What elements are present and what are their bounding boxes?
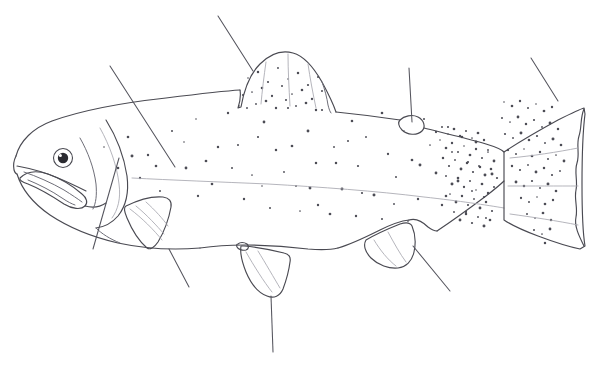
body-spot — [185, 167, 188, 170]
body-spot — [411, 159, 414, 162]
body-spot — [441, 204, 443, 206]
peduncle-spot — [477, 132, 480, 135]
caudal-fin-spot — [555, 154, 557, 156]
caudal-fin-spot — [542, 212, 545, 215]
dorsal-fin-spot — [297, 72, 299, 74]
body-spot — [393, 203, 395, 205]
body-spot — [321, 109, 323, 111]
peduncle-spot — [445, 175, 447, 177]
body-spot — [231, 167, 233, 169]
peduncle-spot — [471, 137, 473, 139]
dorsal-fin-spot — [301, 89, 304, 92]
eye-highlight — [59, 154, 62, 157]
caudal-fin-spot — [526, 213, 528, 215]
caudal-fin-spot — [527, 164, 529, 166]
body-spot — [447, 126, 449, 128]
peduncle-spot — [483, 139, 485, 141]
body-spot — [195, 118, 197, 120]
body-spot — [117, 167, 120, 170]
dorsal-fin-spot — [307, 84, 309, 86]
caudal-fin-spot — [547, 183, 550, 186]
dorsal-fin-spot — [321, 90, 323, 92]
leader-anal-fin — [413, 246, 450, 291]
caudal-fin-spot — [515, 181, 518, 184]
caudal-fin-spot — [517, 116, 520, 119]
body-spot — [147, 154, 149, 156]
caudal-fin-spot — [501, 117, 503, 119]
caudal-fin-spot — [563, 160, 566, 163]
peduncle-spot — [449, 193, 451, 195]
peduncle-spot — [445, 147, 448, 150]
caudal-fin-spot — [519, 169, 521, 171]
leader-caudal-fin — [531, 58, 558, 101]
body-spot — [335, 162, 338, 165]
body-spot — [451, 151, 453, 153]
peduncle-spot — [487, 151, 489, 153]
dorsal-fin-spot — [311, 98, 313, 100]
peduncle-spot — [448, 165, 450, 167]
peduncle-spot — [481, 183, 484, 186]
peduncle-spot — [491, 210, 493, 212]
caudal-fin-spot — [536, 196, 538, 198]
dorsal-fin-spot — [246, 107, 248, 109]
body-spot — [387, 153, 389, 155]
leader-adipose-fin — [409, 68, 412, 122]
caudal-fin-spot — [531, 180, 533, 182]
body-spot — [171, 130, 173, 132]
peduncle-spot — [439, 139, 441, 141]
peduncle-spot — [459, 219, 462, 222]
body-spot — [485, 217, 487, 219]
caudal-fin-spot — [533, 119, 535, 121]
dorsal-fin-spot — [315, 109, 317, 111]
body-spot — [373, 194, 376, 197]
body-spot — [299, 210, 301, 212]
peduncle-spot — [466, 162, 469, 165]
body-spot — [275, 149, 277, 151]
caudal-fin-spot — [560, 144, 563, 147]
body-spot — [471, 190, 473, 192]
leader-pelvic-fin — [271, 296, 273, 352]
body-spot — [329, 213, 332, 216]
dorsal-fin-spot — [255, 103, 257, 105]
fish-anatomy-diagram — [0, 0, 596, 367]
peduncle-spot — [493, 160, 496, 163]
body-spot — [307, 130, 310, 133]
dorsal-fin-spot — [281, 85, 283, 87]
caudal-fin-spot — [535, 103, 537, 105]
dorsal-fin-spot — [265, 100, 268, 103]
body-spot — [127, 136, 130, 139]
body-spot — [159, 190, 161, 192]
caudal-fin-spot — [551, 174, 553, 176]
caudal-fin-spot — [520, 132, 523, 135]
peduncle-spot — [457, 151, 459, 153]
dorsal-fin-spot — [247, 77, 249, 79]
caudal-fin-spot — [511, 105, 514, 108]
caudal-fin-spot — [525, 123, 527, 125]
body-spot — [365, 136, 367, 138]
body-spot — [317, 204, 319, 206]
caudal-fin-spot — [552, 199, 554, 201]
peduncle-spot — [483, 225, 486, 228]
dorsal-fin-spot — [267, 81, 269, 83]
peduncle-spot — [463, 186, 465, 188]
fish-diagram-canvas — [0, 0, 596, 367]
body-spot — [491, 173, 494, 176]
caudal-fin-spot — [541, 233, 543, 235]
caudal-fin-spot — [509, 121, 511, 123]
peduncle-spot — [454, 159, 456, 161]
caudal-fin-spot — [528, 201, 530, 203]
body-spot — [227, 112, 229, 114]
body-spot — [205, 160, 208, 163]
body-spot — [487, 149, 489, 151]
peduncle-spot — [496, 177, 498, 179]
body-spot — [445, 195, 448, 198]
body-spot — [257, 136, 259, 138]
peduncle-spot — [453, 128, 456, 131]
body-spot — [243, 198, 245, 200]
caudal-fin-spot — [543, 167, 545, 169]
body-spot — [457, 180, 460, 183]
peduncle-spot — [469, 180, 471, 182]
peduncle-spot — [490, 168, 493, 171]
dorsal-fin-fill — [238, 54, 334, 112]
peduncle-spot — [493, 186, 495, 188]
